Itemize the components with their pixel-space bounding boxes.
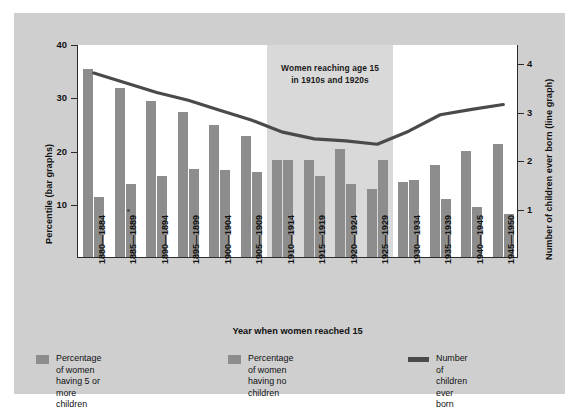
right-axis-title: Number of children ever born (line graph… — [544, 79, 554, 260]
x-axis-tick-label: 1930—1934 — [412, 215, 422, 264]
x-axis-tick-label: 1915—1919 — [317, 215, 327, 264]
x-axis-tick-label: 1900—1904 — [223, 215, 233, 264]
right-axis-tick — [518, 64, 524, 65]
left-axis-tick — [71, 205, 77, 206]
x-axis-title: Year when women reached 15 — [77, 326, 518, 336]
left-axis-tick — [71, 152, 77, 153]
right-axis-tick-label: 3 — [527, 107, 532, 118]
x-axis-tick-label: 1920—1924 — [349, 215, 359, 264]
left-axis-title: Percentile (bar graphs) — [44, 144, 54, 244]
right-axis-tick-label: 1 — [527, 204, 532, 215]
left-axis-tick — [71, 98, 77, 99]
legend-label-children-ever-born: Number of children ever born — [436, 353, 468, 407]
x-axis-tick-label: 1885—1889 — [128, 215, 138, 264]
right-axis-tick-label: 4 — [527, 58, 532, 69]
stray-mark — [127, 209, 130, 212]
legend-label-no-children: Percentage of women having no children — [248, 353, 293, 399]
legend-swatch-children-ever-born — [408, 357, 429, 362]
legend-label-five-or-more-children: Percentage of women having 5 or more chi… — [56, 353, 101, 407]
legend: Percentage of women having 5 or more chi… — [36, 353, 546, 387]
left-axis-tick-label: 40 — [51, 39, 67, 50]
x-axis-tick-label: 1945—1950 — [506, 215, 516, 264]
legend-swatch-no-children — [228, 355, 241, 364]
line-path-children-ever-born — [94, 73, 504, 144]
x-axis-tick-label: 1905—1909 — [254, 215, 264, 264]
x-axis-tick-label: 1935—1939 — [443, 215, 453, 264]
right-axis-tick — [518, 210, 524, 211]
right-axis-tick-label: 2 — [527, 155, 532, 166]
legend-swatch-five-or-more-children — [36, 355, 49, 364]
left-axis-tick — [71, 45, 77, 46]
x-axis-tick-label: 1925—1929 — [380, 215, 390, 264]
x-axis-tick-label: 1895—1899 — [191, 215, 201, 264]
x-axis-tick-label: 1940—1945 — [475, 215, 485, 264]
x-axis-tick-label: 1880—1884 — [97, 215, 107, 264]
figure-panel: Women reaching age 15 in 1910s and 1920s… — [14, 13, 565, 394]
x-axis-tick-label: 1910—1914 — [286, 215, 296, 264]
right-axis-tick — [518, 161, 524, 162]
right-axis-tick — [518, 113, 524, 114]
left-axis-tick-label: 30 — [51, 92, 67, 103]
x-axis-tick-label: 1890—1894 — [160, 215, 170, 264]
